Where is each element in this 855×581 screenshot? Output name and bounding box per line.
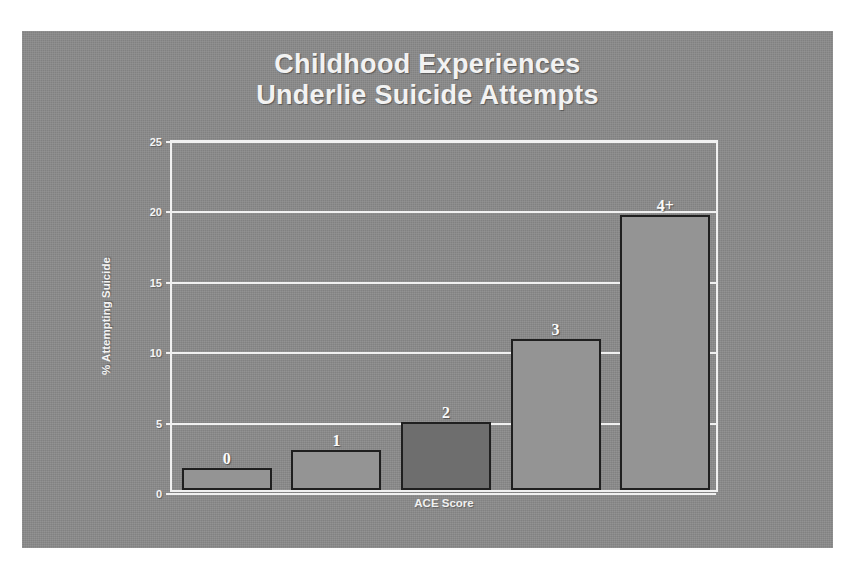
bar-4+ (620, 215, 710, 490)
y-tick-label-15: 15 (150, 277, 162, 289)
x-axis-title: ACE Score (170, 497, 718, 509)
x-axis-title-label: ACE Score (414, 497, 473, 509)
bar-label-4+: 4+ (657, 197, 674, 215)
chart-title: Childhood Experiences Underlie Suicide A… (22, 49, 833, 111)
bar-label-2: 2 (442, 404, 450, 422)
y-tick-label-10: 10 (150, 347, 162, 359)
chart-title-line-2: Underlie Suicide Attempts (22, 80, 833, 111)
y-tick-0 (166, 493, 172, 495)
plot-area: 0510152025 01234+ (170, 140, 718, 492)
y-tick-25 (166, 141, 172, 143)
bar-label-0: 0 (223, 450, 231, 468)
y-tick-label-25: 25 (150, 136, 162, 148)
bar-label-1: 1 (332, 432, 340, 450)
y-axis-title-label: % Attempting Suicide (100, 257, 112, 375)
bar-3 (511, 339, 601, 490)
bar-0 (182, 468, 272, 490)
y-tick-label-20: 20 (150, 206, 162, 218)
y-tick-10 (166, 352, 172, 354)
y-tick-label-5: 5 (156, 418, 162, 430)
bar-label-3: 3 (552, 321, 560, 339)
y-axis-title: % Attempting Suicide (98, 140, 114, 492)
gridline-20 (172, 211, 716, 213)
y-tick-20 (166, 211, 172, 213)
chart-title-line-1: Childhood Experiences (22, 49, 833, 80)
bar-2 (401, 422, 491, 490)
y-tick-label-0: 0 (156, 488, 162, 500)
y-tick-15 (166, 282, 172, 284)
bar-1 (291, 450, 381, 490)
y-tick-5 (166, 423, 172, 425)
gridline-0 (172, 493, 716, 495)
slide-canvas: Childhood Experiences Underlie Suicide A… (22, 31, 833, 548)
gridline-25 (172, 141, 716, 143)
